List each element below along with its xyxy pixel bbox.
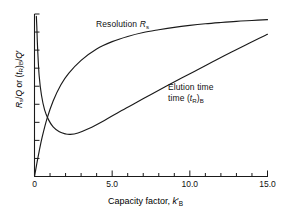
series-line-elution-time [36,16,267,134]
x-axis-label: Capacity factor, k′B [0,196,291,207]
annotation-elution-time-line2: time (tR)B [168,93,204,104]
annotation-elution-time-line1: Elution time [168,82,214,92]
x-tick-label-0: 0 [15,179,55,189]
x-tick-label-1: 5.0 [92,179,132,189]
x-axis-ticks [35,171,268,177]
y-axis-label: Rs/Q or (tR)B/Q′ [14,27,25,131]
x-tick-label-2: 10.0 [170,179,210,189]
series-line-resolution [35,20,268,177]
annotation-resolution: Resolution Rs [96,19,149,30]
axes-frame [35,14,269,177]
chart-figure: Rs/Q or (tR)B/Q′ Resolution Rs Elution t… [0,0,291,219]
x-tick-label-3: 15.0 [248,179,288,189]
